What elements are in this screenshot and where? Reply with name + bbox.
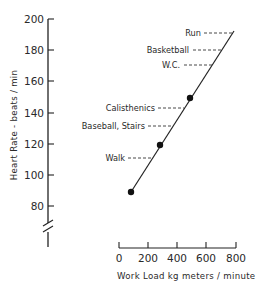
y-tick-label: 160 bbox=[24, 75, 44, 87]
y-axis-title: Heart Rate - beats / min bbox=[9, 70, 19, 181]
annotation-walk: Walk bbox=[105, 153, 125, 163]
y-axis: 200 180 160 140 120 100 80 Heart Rate - … bbox=[9, 13, 54, 247]
data-series bbox=[128, 31, 234, 195]
y-tick-label: 100 bbox=[24, 169, 44, 181]
data-point bbox=[157, 142, 163, 148]
annotation-baseball-stairs: Baseball, Stairs bbox=[82, 121, 145, 131]
heart-rate-chart: 200 180 160 140 120 100 80 Heart Rate - … bbox=[0, 0, 260, 292]
activity-annotations: Run Basketball W.C. Calisthenics Basebal… bbox=[82, 28, 233, 163]
annotation-run: Run bbox=[185, 28, 201, 38]
annotation-basketball: Basketball bbox=[147, 45, 189, 55]
x-tick-label: 0 bbox=[116, 252, 123, 264]
x-tick-label: 800 bbox=[226, 252, 246, 264]
y-tick-label: 80 bbox=[31, 200, 44, 212]
x-tick-label: 400 bbox=[167, 252, 187, 264]
annotation-wc: W.C. bbox=[162, 60, 180, 70]
data-point bbox=[128, 189, 134, 195]
annotation-calisthenics: Calisthenics bbox=[106, 103, 155, 113]
x-axis-title: Work Load kg meters / minute bbox=[117, 271, 255, 281]
x-tick-label: 200 bbox=[138, 252, 158, 264]
y-tick-label: 200 bbox=[24, 13, 44, 25]
x-axis: 0 200 400 600 800 Work Load kg meters / … bbox=[116, 242, 256, 281]
data-point bbox=[187, 95, 193, 101]
y-tick-label: 180 bbox=[24, 44, 44, 56]
axis-break-mark bbox=[43, 226, 53, 232]
y-tick-label: 140 bbox=[24, 107, 44, 119]
x-tick-label: 600 bbox=[196, 252, 216, 264]
y-tick-label: 120 bbox=[24, 138, 44, 150]
